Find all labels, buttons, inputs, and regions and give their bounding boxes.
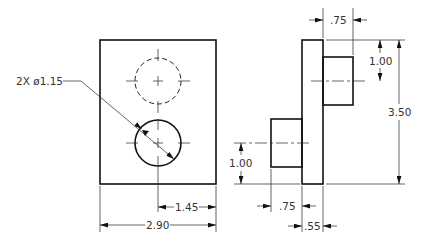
center-marks [126,49,190,212]
svg-text:1.45: 1.45 [175,201,198,213]
dimension-bottom-boss-center: 1.00 [229,143,252,184]
front-view: 2X ø1.15 1.45 2.90 [16,40,216,232]
dimension-plate-thickness: .55 [288,220,337,232]
dimension-top-boss-center: 1.00 [369,40,392,81]
svg-text:.75: .75 [279,200,296,212]
svg-text:.75: .75 [330,14,347,26]
drawing-canvas: 2X ø1.15 1.45 2.90 [0,0,423,246]
svg-text:2.90: 2.90 [146,219,169,231]
side-view: .75 1.00 3.50 1.00 .75 [229,8,411,232]
dimension-2-90: 2.90 [100,219,216,231]
side-view-plate [302,40,323,184]
svg-text:1.00: 1.00 [369,55,392,67]
svg-text:1.00: 1.00 [229,157,252,169]
svg-text:3.50: 3.50 [388,106,411,118]
dimension-top-boss-length: .75 [309,14,367,26]
dimension-1-45: 1.45 [158,201,216,213]
hole-callout-text: 2X ø1.15 [16,75,63,87]
svg-text:.55: .55 [304,220,321,232]
dimension-bottom-boss-length: .75 [257,200,316,212]
